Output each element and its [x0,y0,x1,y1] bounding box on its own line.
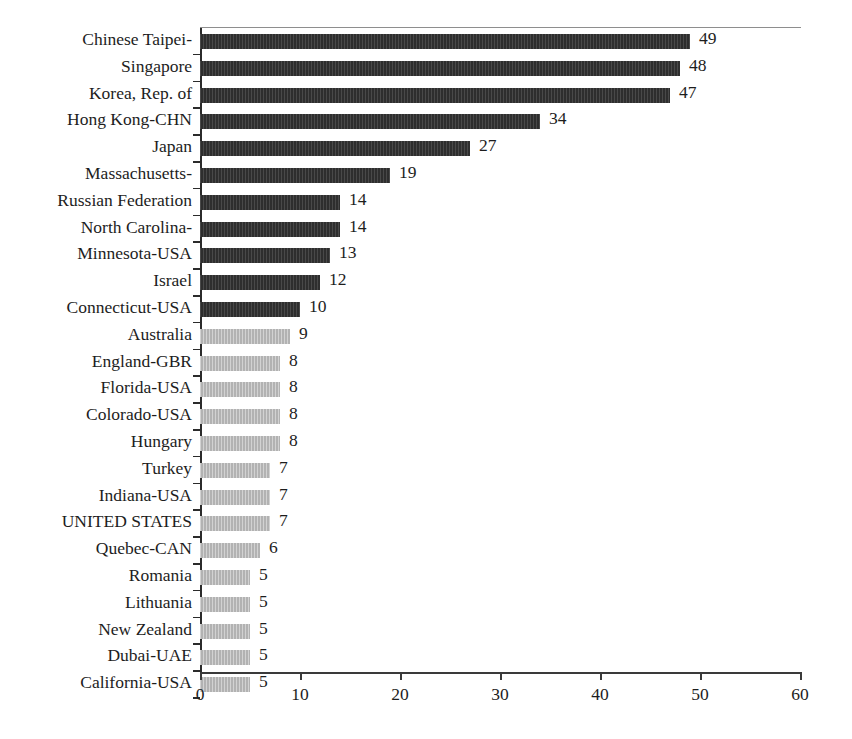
category-label: Israel [6,272,192,290]
bar [200,222,340,237]
category-label: UNITED STATES [6,513,192,531]
bar [200,88,670,103]
y-axis-tick [193,617,200,619]
y-axis-tick [193,670,200,672]
bar [200,650,250,665]
bar-value-label: 14 [349,191,367,209]
category-label: Singapore [6,58,192,76]
category-label: Dubai-UAE [6,647,192,665]
category-label: Florida-USA [6,379,192,397]
x-axis-tick [600,672,602,680]
bar-row: Chinese Taipei-49 [200,28,800,55]
y-axis-tick [193,375,200,377]
category-label: Lithuania [6,594,192,612]
bar-row: New Zealand5 [200,618,800,645]
bar-row: Romania5 [200,564,800,591]
category-label: Massachusetts- [6,165,192,183]
bar-row: Turkey7 [200,457,800,484]
bar-value-label: 8 [289,432,298,450]
bar-value-label: 5 [259,593,268,611]
bar [200,543,260,558]
bar-value-label: 14 [349,218,367,236]
bar-value-label: 7 [279,459,288,477]
bar [200,597,250,612]
y-axis-tick [193,81,200,83]
y-axis-tick [193,134,200,136]
bar-row: North Carolina-14 [200,216,800,243]
y-axis-tick [193,429,200,431]
bar-value-label: 9 [299,325,308,343]
bar-value-label: 34 [549,110,567,128]
bar [200,302,300,317]
bar [200,624,250,639]
bar-row: Florida-USA8 [200,376,800,403]
y-axis-tick [193,107,200,109]
x-axis-tick [200,672,202,680]
bar [200,490,270,505]
bar [200,168,390,183]
bar-value-label: 10 [309,298,327,316]
x-axis-tick-label: 10 [291,686,309,704]
y-axis-tick [193,456,200,458]
x-axis-tick [500,672,502,680]
y-axis-tick [193,268,200,270]
category-label: Indiana-USA [6,487,192,505]
x-axis-tick-label: 20 [391,686,409,704]
bar-row: Lithuania5 [200,591,800,618]
bar [200,195,340,210]
x-axis-tick-label: 0 [196,686,205,704]
y-axis-tick [193,483,200,485]
bar [200,61,680,76]
bar [200,677,250,692]
bar-value-label: 47 [679,84,697,102]
bar [200,516,270,531]
bar-value-label: 12 [329,271,347,289]
y-axis-tick [193,241,200,243]
bar-chart: Chinese Taipei-49Singapore48Korea, Rep. … [0,0,852,739]
bar-row: Australia9 [200,323,800,350]
bar-value-label: 13 [339,244,357,262]
y-axis-tick [193,563,200,565]
bar-row: Massachusetts-19 [200,162,800,189]
category-label: North Carolina- [6,219,192,237]
y-axis-tick [193,590,200,592]
plot-area: Chinese Taipei-49Singapore48Korea, Rep. … [200,28,800,672]
bar [200,409,280,424]
bar-value-label: 27 [479,137,497,155]
bar-row: Russian Federation14 [200,189,800,216]
category-label: Korea, Rep. of [6,85,192,103]
bar-row: Japan27 [200,135,800,162]
y-axis-tick [193,509,200,511]
bar-row: Hong Kong-CHN34 [200,108,800,135]
category-label: Connecticut-USA [6,299,192,317]
bar-value-label: 7 [279,512,288,530]
y-axis-tick [193,54,200,56]
category-label: Turkey [6,460,192,478]
bar-row: Korea, Rep. of47 [200,82,800,109]
category-label: England-GBR [6,353,192,371]
bar-value-label: 19 [399,164,417,182]
bar [200,382,280,397]
bar-value-label: 5 [259,620,268,638]
bar [200,356,280,371]
bar-value-label: 6 [269,539,278,557]
y-axis-tick [193,402,200,404]
category-label: Hungary [6,433,192,451]
x-axis-tick [400,672,402,680]
y-axis-tick [193,643,200,645]
bar-value-label: 5 [259,673,268,691]
bar-row: Quebec-CAN6 [200,537,800,564]
bar-value-label: 7 [279,486,288,504]
x-axis-tick-label: 60 [791,686,809,704]
bar-value-label: 48 [689,57,707,75]
bar [200,436,280,451]
y-axis-tick [193,349,200,351]
bar-row: Dubai-UAE5 [200,644,800,671]
bar-row: Minnesota-USA13 [200,242,800,269]
y-axis-tick [193,188,200,190]
category-label: Russian Federation [6,192,192,210]
category-label: Hong Kong-CHN [6,111,192,129]
bar-row: Singapore48 [200,55,800,82]
bar-row: Connecticut-USA10 [200,296,800,323]
category-label: Colorado-USA [6,406,192,424]
